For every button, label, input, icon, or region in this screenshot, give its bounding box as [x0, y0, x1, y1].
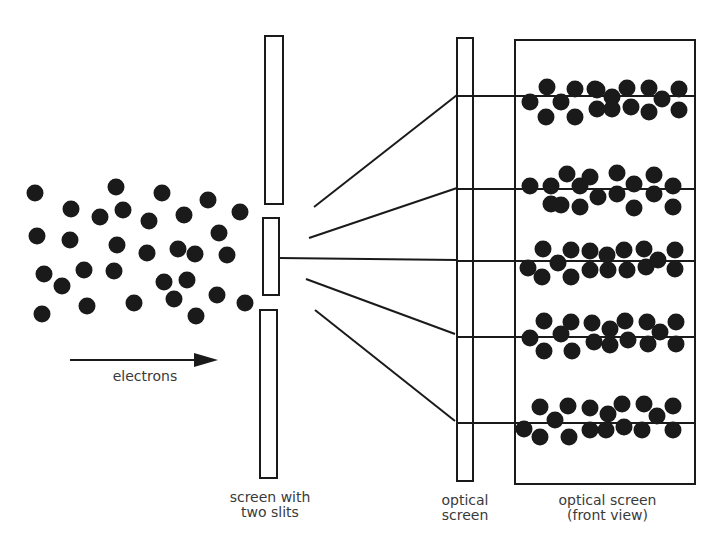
electron-dot — [176, 207, 193, 224]
electron-dot — [187, 246, 204, 263]
electron-hit-dot — [582, 400, 599, 417]
electron-hit-dot — [582, 422, 599, 439]
slit-screen-label: screen with two slits — [205, 490, 335, 520]
electron-dot — [115, 202, 132, 219]
electron-dot — [170, 241, 187, 258]
electron-hit-dot — [522, 178, 539, 195]
electron-hit-dot — [532, 399, 549, 416]
electron-hit-dot — [563, 269, 580, 286]
diagram-canvas — [0, 0, 718, 556]
electron-hit-dot — [620, 332, 637, 349]
electron-hit-dot — [543, 178, 560, 195]
electron-dot — [154, 185, 171, 202]
electron-dot — [141, 213, 158, 230]
electron-hit-dot — [616, 419, 633, 436]
electron-hit-dot — [665, 178, 682, 195]
electron-direction-arrow — [70, 353, 218, 367]
electron-hit-dot — [609, 165, 626, 182]
electron-hit-dot — [567, 109, 584, 126]
ray-line — [314, 95, 457, 207]
electron-hit-dot — [665, 422, 682, 439]
slit-screen-bar — [263, 218, 279, 295]
electron-hit-dot — [671, 102, 688, 119]
electron-dot — [106, 263, 123, 280]
electron-hit-dot — [567, 81, 584, 98]
electron-hit-dot — [539, 79, 556, 96]
electron-hit-dot — [563, 242, 580, 259]
electron-hit-dot — [536, 343, 553, 360]
electron-hit-dot — [582, 262, 599, 279]
electron-hit-dot — [640, 336, 657, 353]
electron-hit-dot — [667, 261, 684, 278]
slit-screen — [260, 36, 283, 478]
electron-hit-dot — [617, 313, 634, 330]
electron-hit-dot — [641, 104, 658, 121]
electron-hit-dot — [665, 398, 682, 415]
electron-hit-dot — [535, 241, 552, 258]
electron-dot — [76, 262, 93, 279]
optical-screen-bar — [457, 38, 473, 481]
electron-dot — [209, 287, 226, 304]
ray-line — [309, 188, 457, 238]
electron-dot — [179, 272, 196, 289]
electron-hit-dot — [553, 197, 570, 214]
electron-hit-dot — [520, 260, 537, 277]
electron-dot — [54, 278, 71, 295]
electron-hit-dot — [665, 199, 682, 216]
electron-dot — [200, 192, 217, 209]
electron-hit-dot — [623, 99, 640, 116]
electron-hit-dot — [534, 269, 551, 286]
double-slit-diagram: electrons screen with two slits optical … — [0, 0, 718, 556]
electron-dot — [166, 291, 183, 308]
electron-hit-dot — [582, 169, 599, 186]
electron-hit-dot — [547, 412, 564, 429]
electron-dot — [62, 232, 79, 249]
electron-hit-dot — [616, 242, 633, 259]
optical-screen-front-view — [457, 40, 695, 484]
electron-hit-dot — [636, 241, 653, 258]
electron-dot — [188, 308, 205, 325]
electron-hit-dot — [619, 262, 636, 279]
front-view-label-line1: optical screen — [520, 493, 695, 508]
slit-screen-bar — [260, 310, 277, 478]
ray-line — [306, 279, 455, 334]
electron-hit-dot — [649, 408, 666, 425]
electron-dot — [219, 247, 236, 264]
electron-dot — [109, 237, 126, 254]
optical-screen-label: optical screen — [420, 493, 510, 523]
electron-hit-dot — [582, 243, 599, 260]
electron-dot — [108, 179, 125, 196]
electron-hit-dot — [646, 167, 663, 184]
electron-dot — [79, 298, 96, 315]
electron-hit-dot — [671, 81, 688, 98]
electron-hit-dot — [600, 406, 617, 423]
electron-hit-dot — [564, 343, 581, 360]
electron-hit-dot — [626, 200, 643, 217]
electron-dot — [211, 225, 228, 242]
optical-screen-side-view — [457, 38, 473, 481]
electron-hit-dot — [654, 91, 671, 108]
electron-dot — [34, 306, 51, 323]
electron-dot — [126, 295, 143, 312]
slit-screen-label-line2: two slits — [205, 505, 335, 520]
slit-screen-bar — [265, 36, 283, 204]
ray-line — [279, 258, 457, 260]
electron-hit-dot — [600, 262, 617, 279]
electron-hit-dot — [589, 101, 606, 118]
electron-dot — [27, 185, 44, 202]
electron-hit-dot — [560, 398, 577, 415]
electron-hit-dot — [536, 313, 553, 330]
arrow-head-icon — [194, 353, 218, 367]
electron-hit-dot — [550, 255, 567, 272]
electron-hit-dot — [634, 422, 651, 439]
electron-hit-dot — [636, 396, 653, 413]
electron-dot — [139, 245, 156, 262]
electron-hit-dot — [538, 109, 555, 126]
electron-hit-dot — [641, 80, 658, 97]
electron-hit-dot — [667, 242, 684, 259]
electron-hit-dot — [602, 321, 619, 338]
electron-hit-dot — [668, 314, 685, 331]
electron-dot — [232, 204, 249, 221]
electron-hit-dot — [668, 336, 685, 353]
electron-hit-dot — [563, 314, 580, 331]
